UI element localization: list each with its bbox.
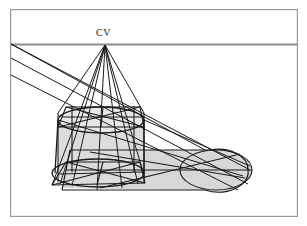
vanishing-point-label: CV <box>96 27 111 38</box>
page-background <box>0 0 307 226</box>
perspective-diagram-figure: CV <box>0 0 307 226</box>
diagram-canvas <box>0 0 307 226</box>
